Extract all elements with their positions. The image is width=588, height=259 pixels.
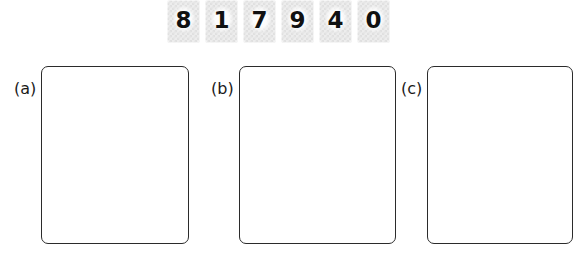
tile-digit: 1 <box>213 9 229 32</box>
number-tile[interactable]: 7 <box>243 0 276 43</box>
answer-group-a: (a) <box>14 66 189 244</box>
answer-box-b[interactable] <box>239 66 396 244</box>
answer-box-c[interactable] <box>427 66 573 244</box>
number-tile-strip: 8 1 7 9 4 0 <box>167 0 390 46</box>
tile-digit: 4 <box>327 9 343 32</box>
tile-digit: 0 <box>365 9 381 32</box>
number-tile[interactable]: 0 <box>357 0 390 43</box>
number-tile[interactable]: 8 <box>167 0 200 43</box>
answer-label-c: (c) <box>401 81 422 97</box>
tile-digit: 7 <box>251 9 267 32</box>
tile-digit: 9 <box>289 9 305 32</box>
number-tile[interactable]: 1 <box>205 0 238 43</box>
number-tile[interactable]: 9 <box>281 0 314 43</box>
answer-group-c: (c) <box>401 66 573 244</box>
answer-label-a: (a) <box>14 81 36 97</box>
answer-label-b: (b) <box>211 81 234 97</box>
number-tile[interactable]: 4 <box>319 0 352 43</box>
tile-digit: 8 <box>175 9 191 32</box>
answer-box-a[interactable] <box>41 66 189 244</box>
worksheet-canvas: 8 1 7 9 4 0 (a) (b) (c) <box>0 0 588 259</box>
answer-group-b: (b) <box>211 66 396 244</box>
